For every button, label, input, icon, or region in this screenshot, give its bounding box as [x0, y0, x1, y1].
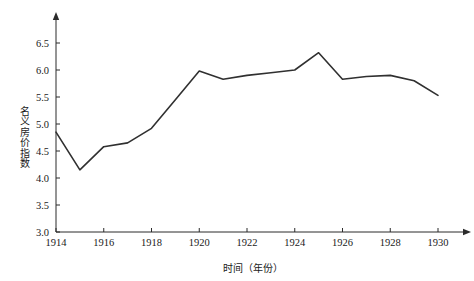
x-axis: 191419161918192019221924192619281930 [46, 228, 472, 248]
x-tick-label: 1930 [428, 237, 449, 248]
x-tick-label: 1928 [380, 237, 401, 248]
x-axis-title: 时间（年份） [223, 262, 283, 274]
x-tick-label: 1926 [332, 237, 353, 248]
y-tick-label: 4.5 [36, 146, 49, 157]
y-axis: 3.03.54.04.55.05.56.06.5 [36, 12, 60, 238]
y-tick-label: 3.5 [36, 200, 49, 211]
x-tick-label: 1914 [46, 237, 68, 248]
y-tick-label: 5.5 [36, 92, 49, 103]
y-axis-title: 名义房价指数 [19, 105, 30, 170]
x-tick-label: 1916 [93, 237, 114, 248]
x-tick-label: 1924 [284, 237, 306, 248]
y-tick-label: 5.0 [36, 119, 49, 130]
y-tick-label: 4.0 [36, 173, 49, 184]
chart-container: 3.03.54.04.55.05.56.06.5 191419161918192… [0, 0, 474, 281]
line-chart: 3.03.54.04.55.05.56.06.5 191419161918192… [0, 0, 474, 281]
x-tick-label: 1918 [141, 237, 162, 248]
y-tick-label: 3.0 [36, 227, 49, 238]
series-line [56, 53, 438, 170]
y-tick-label: 6.5 [36, 38, 49, 49]
x-tick-label: 1922 [237, 237, 258, 248]
x-tick-label: 1920 [189, 237, 210, 248]
data-series [56, 53, 438, 170]
y-tick-label: 6.0 [36, 65, 49, 76]
y-axis-arrow [53, 12, 59, 20]
x-axis-arrow [463, 229, 471, 235]
